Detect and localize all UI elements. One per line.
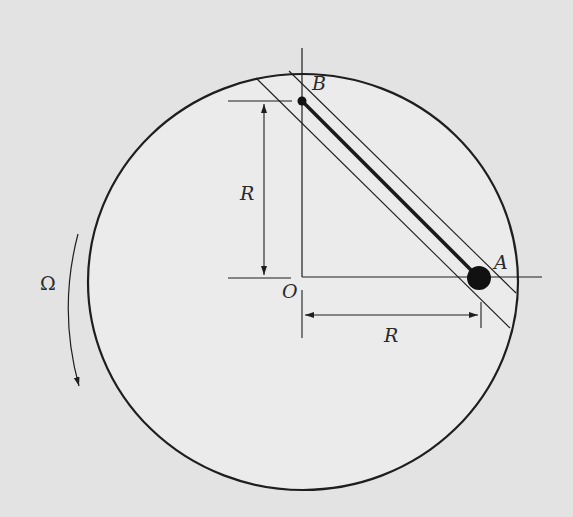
label-r-vertical: R: [239, 182, 254, 204]
label-b: B: [311, 72, 326, 94]
label-omega: Ω: [40, 272, 56, 294]
label-r-horizontal: R: [383, 324, 398, 346]
point-b-dot: [298, 97, 307, 106]
label-a: A: [492, 251, 508, 273]
ball-a: [467, 266, 491, 290]
rotation-arrow: [68, 234, 79, 386]
rotating-disk: [88, 74, 518, 490]
label-o: O: [282, 280, 298, 302]
figure: B A O R R Ω: [0, 0, 573, 517]
